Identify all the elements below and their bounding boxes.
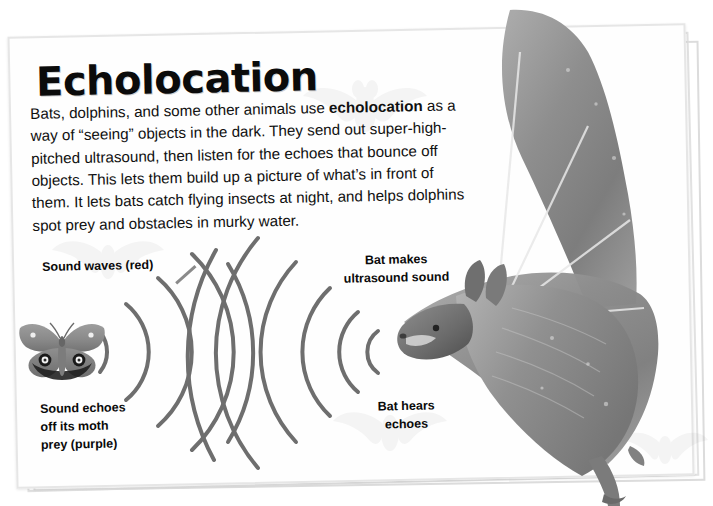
label-sound-waves: Sound waves (red) [42, 257, 153, 277]
body-paragraph: Bats, dolphins, and some other animals u… [30, 94, 471, 237]
label-bat-hears: Bat hears echoes [356, 397, 457, 434]
label-sound-echoes: Sound echoes off its moth prey (purple) [40, 399, 126, 454]
infographic-stage: Echolocation Bats, dolphins, and some ot… [0, 0, 713, 506]
moth-photo [16, 318, 108, 384]
label-bat-makes: Bat makes ultrasound sound [330, 250, 463, 288]
leader-line-sound-waves [175, 265, 196, 284]
body-bold-term: echolocation [329, 97, 423, 116]
body-text-before: Bats, dolphins, and some other animals u… [30, 99, 329, 122]
card-content: Echolocation Bats, dolphins, and some ot… [0, 0, 713, 506]
